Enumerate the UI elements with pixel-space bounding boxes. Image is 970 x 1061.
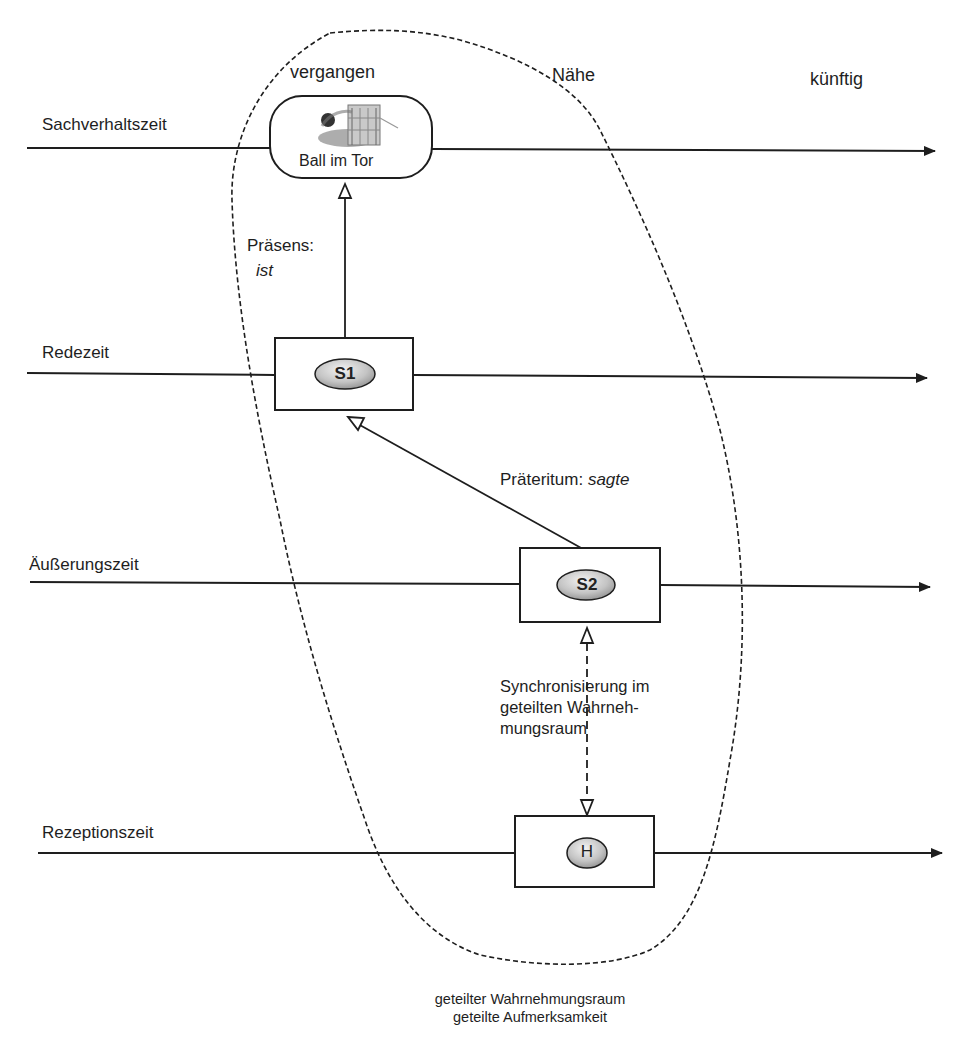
- timeline-aeusserungszeit: [30, 582, 930, 587]
- timeline-label-redezeit: Redezeit: [42, 343, 109, 363]
- present-tense-label: Präsens:: [247, 236, 314, 256]
- past-tense-label: Präteritum: sagte: [500, 470, 629, 490]
- sync-line-3: mungsraum: [500, 718, 649, 739]
- caption-line-1: geteilter Wahrnehmungsraum: [400, 990, 660, 1008]
- h-label: H: [567, 842, 607, 862]
- synchronisation-label: Synchronisierung im geteilten Wahrneh- m…: [500, 676, 649, 739]
- past-tense-form: sagte: [588, 470, 630, 489]
- sync-line-2: geteilten Wahrneh-: [500, 697, 649, 718]
- timeline-label-rezeptionszeit: Rezeptionszeit: [42, 823, 154, 843]
- zone-label-future: künftig: [810, 69, 863, 90]
- zone-label-near: Nähe: [552, 65, 595, 86]
- timeline-redezeit: [27, 373, 927, 378]
- sync-line-1: Synchronisierung im: [500, 676, 649, 697]
- present-tense-arrow: [339, 184, 351, 338]
- diagram-canvas: [0, 0, 970, 1061]
- zone-label-past: vergangen: [290, 62, 375, 83]
- event-label: Ball im Tor: [299, 152, 373, 170]
- s1-label: S1: [315, 364, 375, 384]
- caption: geteilter Wahrnehmungsraum geteilte Aufm…: [400, 990, 660, 1026]
- timeline-sachverhaltszeit: [27, 148, 935, 151]
- timeline-label-sachverhaltszeit: Sachverhaltszeit: [42, 115, 167, 135]
- timeline-label-aeusserungszeit: Äußerungszeit: [29, 555, 139, 575]
- present-tense-form: ist: [256, 261, 273, 281]
- s2-label: S2: [557, 575, 617, 595]
- past-tense-label-text: Präteritum:: [500, 470, 583, 489]
- caption-line-2: geteilte Aufmerksamkeit: [400, 1008, 660, 1026]
